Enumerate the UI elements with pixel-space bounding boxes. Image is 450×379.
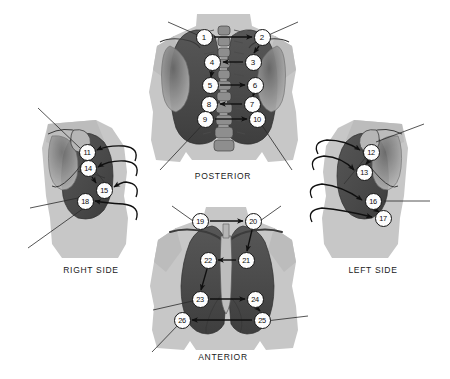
caption-right-side: RIGHT SIDE (36, 265, 146, 275)
marker-left-side-17[interactable]: 17 (375, 210, 392, 227)
marker-posterior-7[interactable]: 7 (244, 96, 261, 113)
marker-right-side-14[interactable]: 14 (80, 160, 97, 177)
marker-anterior-20[interactable]: 20 (245, 213, 262, 230)
marker-anterior-24[interactable]: 24 (247, 291, 264, 308)
marker-posterior-10[interactable]: 10 (249, 111, 266, 128)
marker-anterior-21[interactable]: 21 (238, 252, 255, 269)
marker-posterior-5[interactable]: 5 (202, 77, 219, 94)
marker-right-side-18[interactable]: 18 (77, 193, 94, 210)
marker-left-side-12[interactable]: 12 (363, 144, 380, 161)
marker-anterior-19[interactable]: 19 (192, 213, 209, 230)
marker-posterior-3[interactable]: 3 (245, 54, 262, 71)
marker-right-side-11[interactable]: 11 (79, 144, 96, 161)
marker-left-side-13[interactable]: 13 (356, 164, 373, 181)
anterior-view-group (150, 206, 308, 352)
left-side-view-group (310, 120, 430, 258)
caption-posterior: POSTERIOR (163, 171, 283, 181)
marker-posterior-4[interactable]: 4 (204, 54, 221, 71)
marker-anterior-22[interactable]: 22 (200, 252, 217, 269)
posterior-view-group (149, 14, 298, 170)
marker-posterior-6[interactable]: 6 (247, 77, 264, 94)
right-side-view-group (28, 108, 137, 258)
anatomy-illustration (0, 0, 450, 379)
marker-anterior-25[interactable]: 25 (254, 312, 271, 329)
anatomy-figure: 1 2 3 4 5 6 7 8 9 10 19 20 21 22 23 24 2… (0, 0, 450, 379)
marker-left-side-16[interactable]: 16 (365, 193, 382, 210)
marker-anterior-23[interactable]: 23 (192, 291, 209, 308)
anterior-sternum (220, 236, 232, 314)
marker-posterior-1[interactable]: 1 (196, 29, 213, 46)
caption-anterior: ANTERIOR (163, 352, 283, 362)
marker-posterior-9[interactable]: 9 (197, 111, 214, 128)
caption-left-side: LEFT SIDE (318, 265, 428, 275)
marker-posterior-2[interactable]: 2 (254, 29, 271, 46)
marker-posterior-8[interactable]: 8 (201, 96, 218, 113)
anterior-trachea (223, 224, 229, 238)
marker-anterior-26[interactable]: 26 (174, 312, 191, 329)
marker-right-side-15[interactable]: 15 (96, 182, 113, 199)
